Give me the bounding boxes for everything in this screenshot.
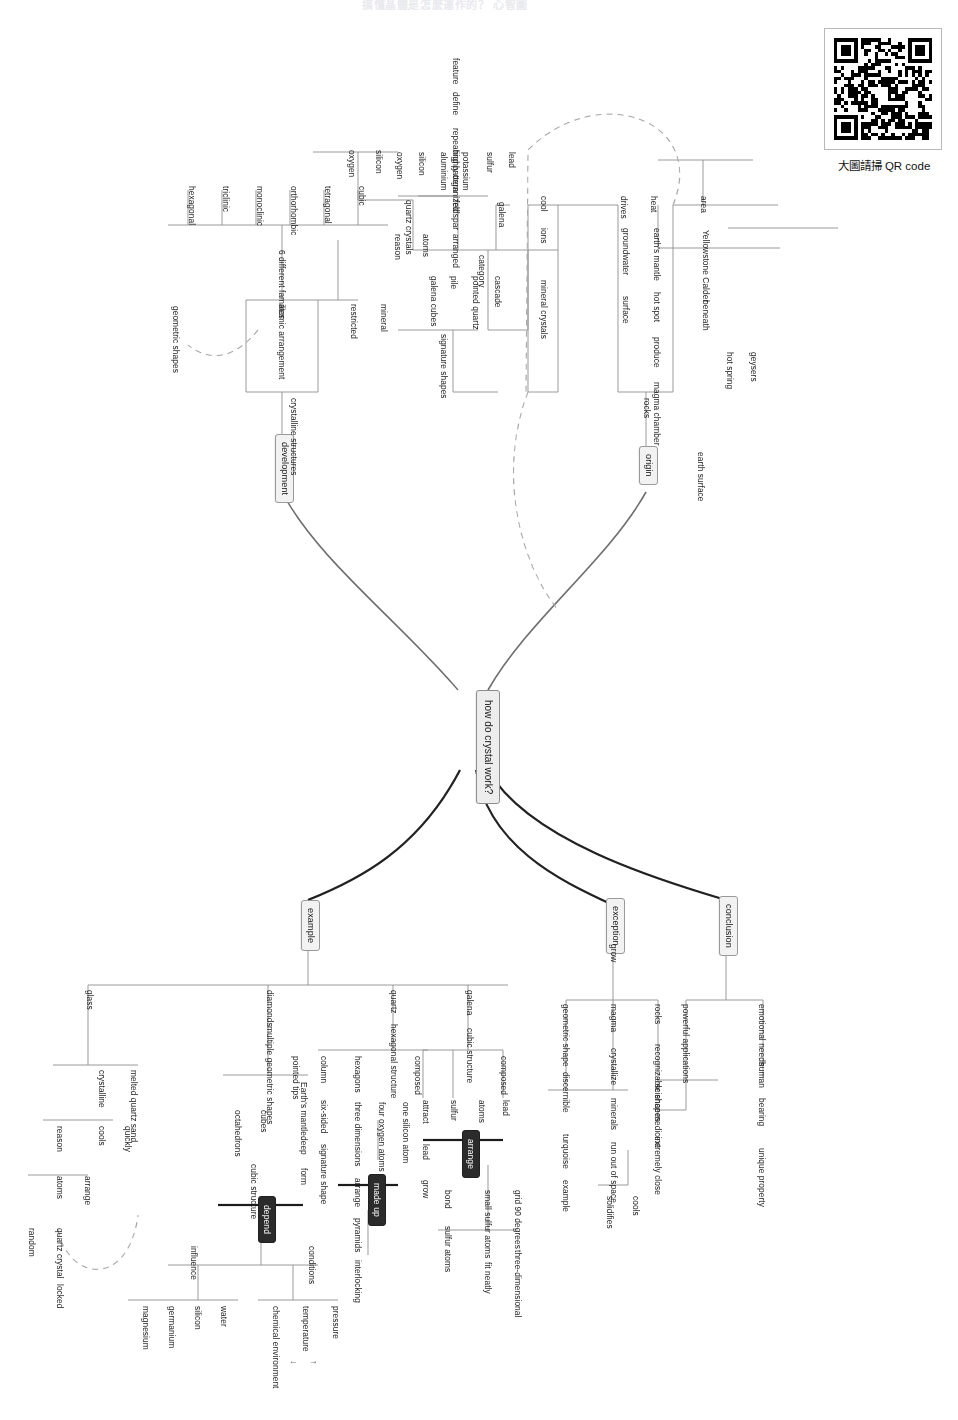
quartz-r0-1: three dimensions	[354, 1102, 362, 1167]
glass-r4-1: locked	[56, 1284, 64, 1309]
geometric-shapes-node: geometric shapes	[172, 306, 180, 373]
category-group-galena: galena	[498, 202, 506, 227]
exc-r2-1: discernible	[562, 1072, 570, 1113]
temperature-arrow-down: ↓	[289, 1360, 298, 1365]
family-3: monoclinic	[256, 186, 264, 226]
glass-r4-0: quartz crystal	[56, 1228, 64, 1279]
category-group-quartz: quartz crystals	[405, 200, 413, 255]
glass-r3-1: atoms	[56, 1176, 64, 1199]
quartz-r0-0: hexagons	[354, 1056, 362, 1093]
feldspar-member-3: oxygen	[396, 152, 404, 179]
diamonds-r0-1: deep	[300, 1136, 308, 1155]
diamonds-r2-1: cubic structure	[250, 1164, 258, 1219]
conclusion-chain-3: unique property	[758, 1148, 766, 1207]
origin-chain-drives-0: drives	[620, 196, 628, 219]
condition-0: pressure	[332, 1306, 340, 1339]
diamonds-emphasis[interactable]: depend	[258, 1196, 276, 1243]
exc-r2-3: example	[562, 1180, 570, 1212]
quartz-head-1: hexagonal structure	[390, 1024, 398, 1099]
development-restricted-1: mineral	[380, 304, 388, 332]
exception-cools: cools	[632, 1196, 640, 1216]
feldspar-member-1: aluminium	[440, 152, 448, 191]
quartz-composed: composed	[414, 1056, 422, 1095]
galena-member-0: lead	[508, 152, 516, 168]
branch-origin[interactable]: origin	[639, 446, 658, 485]
galena-det0-0: grid 90 degrees	[514, 1190, 522, 1249]
diamonds-head-0: diamonds	[266, 990, 274, 1027]
exc-r0-2: extremely close	[654, 1136, 662, 1195]
influence-2: germanium	[168, 1306, 176, 1348]
family-1: tetragonal	[324, 186, 332, 224]
diamonds-r1-0: cubes	[260, 1110, 268, 1133]
exception-stem: grow	[610, 944, 618, 962]
branch-example[interactable]: example	[301, 900, 320, 951]
sig-row2-2: arranged	[452, 234, 460, 268]
origin-chain-cool-0: cool	[540, 196, 548, 212]
glass-r3-0: reason	[56, 1126, 64, 1152]
galena-row2-2: grow	[422, 1180, 430, 1198]
family-0: cubic	[358, 186, 366, 206]
exc-r1-1: crystallize	[610, 1048, 618, 1085]
quartz-member-1: oxygen	[348, 150, 356, 177]
quartz-det-1: interlocking	[354, 1260, 362, 1303]
quartz-member-0: silicon	[375, 150, 383, 174]
sig-row2-1: atoms	[422, 234, 430, 257]
galena-emphasis[interactable]: arrange	[462, 1130, 480, 1178]
quartz-r1-0: one silicon atom	[402, 1102, 410, 1163]
glass-r5-0: random	[28, 1228, 36, 1257]
condition-2: chemical environment	[272, 1306, 280, 1388]
exc-r1-3: run out of space	[610, 1142, 618, 1203]
conclusion-chain-0: emotional needs	[758, 1004, 766, 1066]
origin-chain-heat-5: earth surface	[697, 452, 705, 502]
temperature-arrow-up: ↑	[309, 1360, 318, 1365]
influence-label: influence	[190, 1246, 198, 1280]
exc-r0-1: recognizable shapes	[654, 1044, 662, 1122]
galena-det0-1: three-dimensional	[514, 1250, 522, 1317]
family-5: hexagonal	[188, 186, 196, 225]
origin-chain-area-1: Yellowstone Calder	[702, 230, 710, 302]
feldspar-member-0: potassium	[462, 152, 470, 191]
origin-chain-heat-3: produce	[653, 337, 661, 368]
families-count-label: 6 different families	[278, 250, 286, 319]
glass-r2-1: quickly	[124, 1126, 132, 1152]
arranged-pattern: repeating pattern	[452, 128, 460, 192]
origin-chain-cool-1: ions	[540, 228, 548, 244]
origin-chain-heat-4: magma chamber	[653, 382, 661, 446]
page-canvas: 搞懂晶體是怎麼運作的？ 心智圖 大圖請掃 QR code	[0, 0, 958, 1420]
galena-det2-1: sulfur atoms	[444, 1226, 452, 1272]
glass-head: glass	[86, 990, 94, 1010]
development-stem: crystalline structures	[290, 398, 298, 475]
origin-chain-heat-2: hot spot	[653, 292, 661, 322]
galena-row0-0: lead	[502, 1100, 510, 1116]
diamonds-r0-2: form	[300, 1168, 308, 1185]
origin-stem: rocks	[643, 398, 651, 418]
exception-solidifies: solidifies	[606, 1196, 614, 1229]
condition-1: temperature	[302, 1306, 310, 1352]
quartz-r3-0: column	[320, 1056, 328, 1083]
origin-chain-drives-1: groundwater	[622, 228, 630, 275]
root-node[interactable]: how do crystal work?	[476, 690, 500, 804]
arranged-tail-0: define	[452, 92, 460, 115]
conclusion-chain-1: human	[758, 1062, 766, 1088]
signature-shapes-label: signature shapes	[440, 334, 448, 399]
origin-chain-area-3: geysers	[750, 352, 758, 382]
conclusion-chain-2: bearing	[758, 1098, 766, 1126]
sig-row2-0: reason	[394, 234, 402, 260]
family-4: triclinic	[222, 186, 230, 212]
sig-row0-0: pointed quartz	[472, 276, 480, 330]
origin-chain-drives-2: surface	[622, 296, 630, 324]
origin-chain-area-0: area	[700, 196, 708, 213]
glass-r2-0: cools	[98, 1126, 106, 1146]
exc-r0-0: rocks	[654, 1004, 662, 1024]
origin-chain-heat-1: earth's mantle	[653, 228, 661, 281]
origin-chain-area-2: beneath	[702, 300, 710, 331]
quartz-r3-2: signature shape	[320, 1144, 328, 1204]
exc-r1-2: minerals	[610, 1098, 618, 1130]
quartz-emphasis[interactable]: made up	[368, 1174, 386, 1226]
galena-det1-1: fit neatly	[484, 1262, 492, 1294]
galena-head-1: cubic structure	[466, 1028, 474, 1083]
family-2: orthorhombic	[290, 186, 298, 235]
arranged-tail-1: feature	[452, 58, 460, 84]
branch-conclusion[interactable]: conclusion	[719, 896, 738, 956]
origin-chain-area-4: hot spring	[726, 352, 734, 389]
